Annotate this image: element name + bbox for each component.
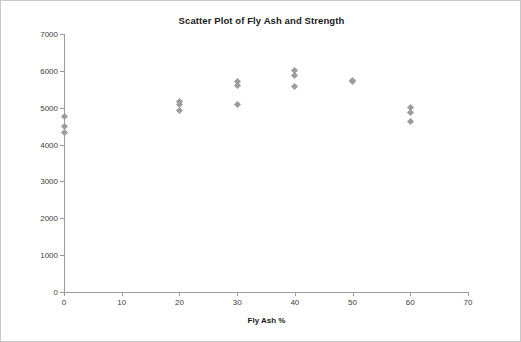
x-axis-tick-label: 10 <box>117 298 126 307</box>
y-axis-tick-label: 2000 <box>40 214 58 223</box>
x-axis-line <box>64 292 469 293</box>
y-axis-tick <box>60 218 64 219</box>
x-axis-tick-label: 20 <box>175 298 184 307</box>
data-point <box>407 109 414 116</box>
data-point <box>60 129 67 136</box>
x-axis-tick <box>295 292 296 296</box>
y-axis-tick <box>60 181 64 182</box>
x-axis-tick-label: 70 <box>464 298 473 307</box>
plot-area: 0100020003000400050006000700001020304050… <box>64 34 468 292</box>
y-axis-tick <box>60 108 64 109</box>
x-axis-tick <box>353 292 354 296</box>
x-axis-tick-label: 30 <box>233 298 242 307</box>
y-axis-tick-label: 5000 <box>40 103 58 112</box>
x-axis-tick <box>179 292 180 296</box>
data-point <box>234 101 241 108</box>
x-axis-tick <box>237 292 238 296</box>
data-point <box>291 83 298 90</box>
y-axis-tick <box>60 145 64 146</box>
y-axis-tick <box>60 71 64 72</box>
x-axis-tick <box>468 292 469 296</box>
chart-title: Scatter Plot of Fly Ash and Strength <box>1 15 521 26</box>
data-point <box>60 113 67 120</box>
x-axis-tick-label: 0 <box>62 298 66 307</box>
x-axis-tick-label: 50 <box>348 298 357 307</box>
y-axis-tick-label: 0 <box>54 288 58 297</box>
y-axis-tick-label: 7000 <box>40 30 58 39</box>
x-axis-tick <box>410 292 411 296</box>
y-axis-tick <box>60 255 64 256</box>
data-point <box>407 118 414 125</box>
y-axis-tick-label: 6000 <box>40 66 58 75</box>
x-axis-tick <box>64 292 65 296</box>
data-point <box>234 82 241 89</box>
x-axis-tick <box>122 292 123 296</box>
x-axis-title: Fly Ash % <box>64 316 469 325</box>
y-axis-tick-label: 1000 <box>40 251 58 260</box>
x-axis-tick-label: 40 <box>290 298 299 307</box>
data-point <box>291 72 298 79</box>
y-axis-tick <box>60 34 64 35</box>
y-axis-tick-label: 3000 <box>40 177 58 186</box>
scatter-chart: Scatter Plot of Fly Ash and Strength 010… <box>0 0 521 342</box>
data-point <box>176 107 183 114</box>
x-axis-tick-label: 60 <box>406 298 415 307</box>
y-axis-tick-label: 4000 <box>40 140 58 149</box>
